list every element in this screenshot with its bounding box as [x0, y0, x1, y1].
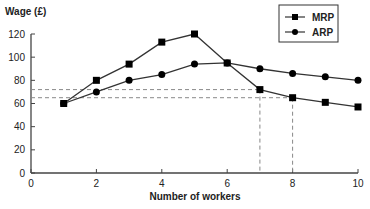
data-point	[355, 103, 362, 110]
data-point	[158, 71, 165, 78]
data-point	[191, 61, 198, 68]
data-point	[256, 65, 263, 72]
y-tick-label: 100	[8, 52, 25, 63]
data-point	[93, 77, 100, 84]
data-point	[224, 59, 231, 66]
series-line-mrp	[64, 34, 358, 107]
data-point	[60, 100, 67, 107]
data-point	[126, 77, 133, 84]
data-point	[93, 88, 100, 95]
dashed-guides	[31, 90, 293, 173]
x-tick-label: 8	[290, 178, 296, 189]
data-point	[355, 77, 362, 84]
y-tick-label: 40	[14, 121, 26, 132]
square-marker-icon	[292, 14, 298, 20]
y-tick-label: 120	[8, 29, 25, 40]
data-point	[322, 73, 329, 80]
data-point	[191, 31, 198, 38]
data-point	[158, 39, 165, 46]
y-tick-label: 60	[14, 98, 26, 109]
legend-mrp: MRP	[312, 12, 335, 23]
x-tick-label: 6	[224, 178, 230, 189]
circle-marker-icon	[292, 29, 298, 35]
legend-arp: ARP	[312, 27, 333, 38]
x-tick-label: 2	[94, 178, 100, 189]
data-point	[289, 94, 296, 101]
x-tick-label: 10	[352, 178, 364, 189]
axes: 0204060801001200246810	[8, 29, 364, 190]
y-tick-label: 0	[19, 168, 25, 179]
legend: MRP ARP	[279, 5, 338, 42]
y-tick-label: 20	[14, 144, 26, 155]
data-point	[322, 99, 329, 106]
data-point	[126, 61, 133, 68]
x-axis-label: Number of workers	[149, 191, 241, 202]
x-tick-label: 0	[28, 178, 34, 189]
line-chart: Wage (£) 0204060801001200246810 Number o…	[0, 0, 370, 209]
y-tick-label: 80	[14, 75, 26, 86]
series-line-arp	[64, 63, 358, 104]
data-point	[256, 86, 263, 93]
data-point	[289, 70, 296, 77]
x-tick-label: 4	[159, 178, 165, 189]
y-axis-label: Wage (£)	[5, 6, 46, 17]
